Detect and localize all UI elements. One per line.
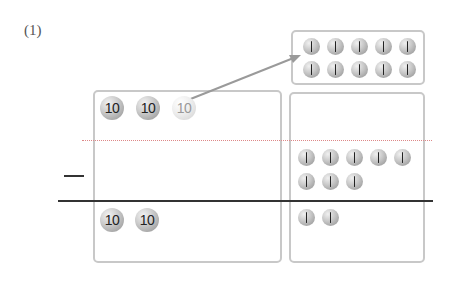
one-coin-icon [322,173,339,190]
one-coin-icon [298,209,315,226]
ten-coin-icon: 10 [100,96,124,120]
one-coin-icon [346,173,363,190]
one-coin-icon [298,149,315,166]
minus-sign [64,175,84,177]
ten-coin-icon: 10 [135,208,159,232]
one-coin-icon [322,209,339,226]
exchange-arrow-icon [0,0,456,283]
one-coin-icon [298,173,315,190]
one-coin-icon [370,149,387,166]
ten-coin-icon: 10 [100,208,124,232]
one-coin-icon [322,149,339,166]
ten-coin-icon: 10 [136,96,160,120]
one-coin-icon [346,149,363,166]
regrouped-ten-coin-icon: 10 [172,96,196,120]
one-coin-icon [394,149,411,166]
result-rule-line [58,200,433,202]
dotted-separator [82,140,432,141]
